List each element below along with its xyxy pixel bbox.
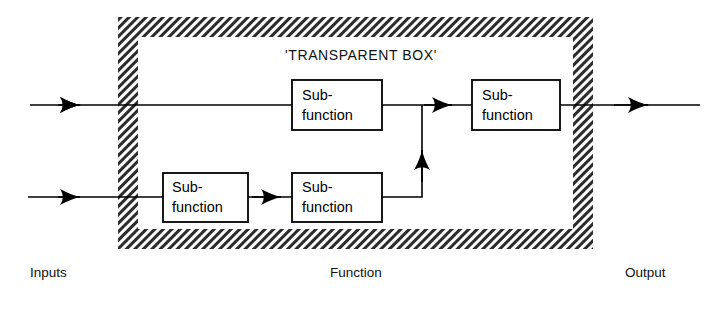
block-top-right-line1: Sub- [482,87,513,103]
block-bottom-left[interactable]: Sub- function [163,173,248,222]
block-bottom-middle[interactable]: Sub- function [292,173,382,222]
block-bottom-middle-line2: function [302,199,353,215]
block-top-middle-line1: Sub- [302,87,333,103]
subfunction-blocks: Sub- function Sub- function Sub- functio… [163,80,560,222]
block-top-right[interactable]: Sub- function [472,80,560,130]
caption-output: Output [625,265,666,280]
block-top-middle[interactable]: Sub- function [292,80,382,130]
diagram-title: 'TRANSPARENT BOX' [285,47,437,63]
block-bottom-left-line1: Sub- [172,179,203,195]
diagram-canvas: Sub- function Sub- function Sub- functio… [0,0,722,315]
transparent-box-diagram: Sub- function Sub- function Sub- functio… [0,0,722,315]
block-bottom-left-line2: function [172,199,223,215]
block-top-right-line2: function [482,107,533,123]
caption-inputs: Inputs [30,265,67,280]
block-top-middle-line2: function [302,107,353,123]
caption-function: Function [330,265,382,280]
connector-bottommiddle-riser [382,105,422,197]
block-bottom-middle-line1: Sub- [302,179,333,195]
